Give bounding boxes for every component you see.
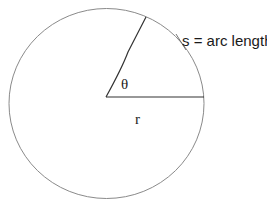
diagram-canvas: s = arc length θ r xyxy=(0,0,267,204)
arc-length-label: s = arc length xyxy=(182,32,267,49)
arc-length-diagram: s = arc length θ r xyxy=(0,0,267,204)
theta-label: θ xyxy=(121,76,128,92)
radius-label: r xyxy=(135,111,140,127)
circle xyxy=(9,9,204,199)
